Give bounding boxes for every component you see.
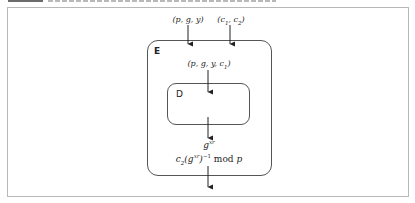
intermediate-tuple: (p, g, y, c1) <box>187 59 230 70</box>
input-public-key: (p, g, y) <box>172 15 203 24</box>
d-output-value: gxr <box>203 139 215 150</box>
decryption-result: c2(gxr)−1 mod p <box>176 153 242 166</box>
arrows <box>0 0 415 203</box>
input-ciphertext: (c1, c2) <box>217 15 244 26</box>
